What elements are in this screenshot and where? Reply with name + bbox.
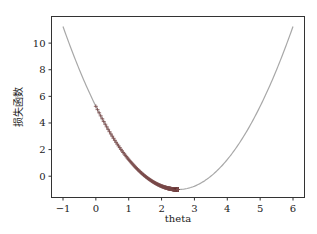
x-tick-label: 6 — [290, 203, 296, 214]
y-axis-label: 损失函数 — [12, 87, 24, 127]
x-axis-label: theta — [165, 213, 191, 224]
x-tick-label: 5 — [257, 203, 263, 214]
x-tick-label: 0 — [93, 203, 99, 214]
y-tick-label: 2 — [39, 144, 45, 155]
x-tick-label: −1 — [56, 203, 71, 214]
x-axis: −10123456 — [56, 198, 297, 214]
y-tick-label: 4 — [39, 117, 45, 128]
y-tick-label: 10 — [33, 38, 46, 49]
y-tick-label: 8 — [39, 64, 45, 75]
x-tick-label: 3 — [191, 203, 197, 214]
y-tick-label: 0 — [39, 171, 45, 182]
chart: −10123456 0246810 theta 损失函数 — [0, 0, 317, 234]
plot-area — [63, 26, 293, 191]
x-tick-label: 4 — [224, 203, 230, 214]
y-tick-label: 6 — [39, 91, 45, 102]
plot-frame — [52, 17, 305, 198]
descent-markers — [94, 104, 180, 191]
y-axis: 0246810 — [33, 38, 52, 182]
x-tick-label: 2 — [158, 203, 164, 214]
x-tick-label: 1 — [126, 203, 132, 214]
